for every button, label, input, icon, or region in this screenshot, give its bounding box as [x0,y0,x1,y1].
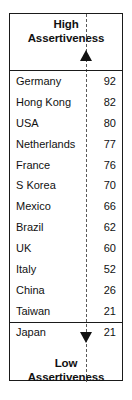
high-label-line-2: Assertiveness [10,31,122,45]
low-assertiveness-label: Low Assertiveness [10,356,122,384]
country-name: Italy [16,259,36,280]
arrow-down-icon [80,332,92,343]
country-name: Mexico [16,196,51,217]
country-score: 80 [88,113,116,134]
country-name: USA [16,113,39,134]
table-row: USA 80 [10,113,122,134]
country-score: 76 [88,155,116,176]
country-score: 70 [88,175,116,196]
high-assertiveness-label: High Assertiveness [10,17,122,45]
country-name: France [16,155,50,176]
low-assertiveness-footer: Low Assertiveness [10,322,122,382]
country-score: 92 [88,71,116,92]
country-rank-list: Germany 92 Hong Kong 82 USA 80 Netherlan… [10,71,122,322]
assertiveness-scale-figure: High Assertiveness Germany 92 Hong Kong … [9,13,123,381]
country-score: 82 [88,92,116,113]
table-row: Mexico 66 [10,196,122,217]
country-name: Brazil [16,217,44,238]
high-assertiveness-header: High Assertiveness [10,14,122,71]
country-score: 60 [88,238,116,259]
table-row: Italy 52 [10,259,122,280]
low-label-line-2: Assertiveness [10,370,122,384]
country-score: 26 [88,280,116,301]
country-name: Taiwan [16,301,50,322]
table-row: Taiwan 21 [10,301,122,322]
country-score: 21 [88,301,116,322]
table-row: S Korea 70 [10,175,122,196]
table-row: Hong Kong 82 [10,92,122,113]
arrow-up-icon [80,50,92,61]
table-row: UK 60 [10,238,122,259]
table-row: Netherlands 77 [10,134,122,155]
country-score: 66 [88,196,116,217]
table-row: France 76 [10,155,122,176]
low-label-line-1: Low [10,356,122,370]
country-score: 77 [88,134,116,155]
country-name: S Korea [16,175,56,196]
country-score: 62 [88,217,116,238]
country-name: Netherlands [16,134,75,155]
table-row: Germany 92 [10,71,122,92]
country-name: UK [16,238,31,259]
country-name: Hong Kong [16,92,71,113]
country-score: 52 [88,259,116,280]
high-label-line-1: High [10,17,122,31]
country-name: Germany [16,71,61,92]
country-name: China [16,280,45,301]
table-row: China 26 [10,280,122,301]
table-row: Brazil 62 [10,217,122,238]
